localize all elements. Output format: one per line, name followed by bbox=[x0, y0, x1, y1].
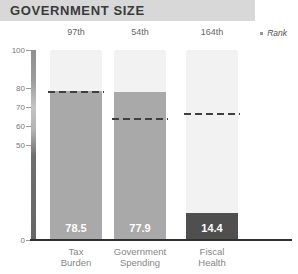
world-average-dashed-line bbox=[184, 113, 240, 115]
bar-fill bbox=[114, 92, 166, 240]
bar-track: 77.9 bbox=[114, 50, 166, 240]
y-tick-label: 100 bbox=[0, 46, 25, 55]
rank-legend: Rank bbox=[260, 28, 287, 38]
rank-label: 164th bbox=[182, 27, 242, 37]
y-tick-label: 0 bbox=[0, 236, 25, 245]
category-label: FiscalHealth bbox=[170, 246, 254, 268]
y-tick-label: 70 bbox=[0, 103, 25, 112]
world-average-dashed-line bbox=[112, 118, 168, 120]
x-axis-baseline bbox=[30, 239, 292, 241]
section-header-band: GOVERNMENT SIZE bbox=[0, 0, 255, 21]
bar-value-label: 14.4 bbox=[186, 222, 238, 234]
world-average-dashed-line bbox=[48, 91, 104, 93]
page-title: GOVERNMENT SIZE bbox=[0, 3, 145, 18]
rank-marker-icon bbox=[260, 32, 263, 35]
y-tick-label: 50 bbox=[0, 141, 25, 150]
bar-track: 14.4 bbox=[186, 50, 238, 240]
bar-value-label: 77.9 bbox=[114, 222, 166, 234]
rank-label: 54th bbox=[110, 27, 170, 37]
bar-fill bbox=[50, 91, 102, 240]
bar-value-label: 78.5 bbox=[50, 222, 102, 234]
rank-label: 97th bbox=[46, 27, 106, 37]
y-axis-gradient-bar bbox=[31, 50, 36, 240]
bar-track: 78.5 bbox=[50, 50, 102, 240]
government-size-chart: GOVERNMENT SIZE Rank 100807060500 78.577… bbox=[0, 0, 298, 274]
y-tick-label: 80 bbox=[0, 84, 25, 93]
rank-legend-label: Rank bbox=[267, 28, 287, 38]
y-tick-label: 60 bbox=[0, 122, 25, 131]
